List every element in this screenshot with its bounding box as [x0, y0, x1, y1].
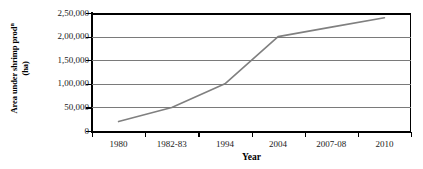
y-axis-tick-labels: 2,50,0002,00,0001,50,0001,00,00050,0000	[33, 0, 89, 169]
y-axis-tick-label: 1,00,000	[35, 79, 89, 88]
x-axis-tick-label: 2010	[375, 139, 393, 149]
x-axis-tick-label: 1982-83	[157, 139, 187, 149]
data-series-line	[119, 18, 385, 122]
x-axis-tick-mark	[305, 132, 306, 137]
gridline	[92, 84, 411, 85]
gridline	[92, 107, 411, 108]
x-axis-tick-label: 1980	[110, 139, 128, 149]
y-axis-tick-mark	[86, 84, 92, 85]
y-axis-tick-label: 1,50,000	[35, 56, 89, 65]
y-axis-tick-label: 0	[35, 127, 89, 136]
y-axis-title: Area under shrimp prodn (ha)	[0, 0, 36, 136]
y-axis-tick-label: 50,000	[35, 103, 89, 112]
x-axis-tick-label: 1994	[216, 139, 234, 149]
y-axis-tick-label: 2,00,000	[35, 32, 89, 41]
chart-figure: Area under shrimp prodn (ha) 2,50,0002,0…	[0, 0, 423, 169]
x-axis-tick-mark	[411, 132, 412, 137]
y-axis-tick-label: 2,50,000	[35, 9, 89, 18]
y-axis-tick-mark	[86, 37, 92, 38]
y-axis-title-text: Area under shrimp prod	[9, 26, 19, 113]
plot-area	[92, 13, 411, 131]
x-axis-tick-mark	[358, 132, 359, 137]
y-axis-title-units: (ha)	[19, 23, 29, 113]
x-axis-tick-mark	[198, 132, 199, 137]
x-axis-tick-mark	[145, 132, 146, 137]
gridline	[92, 37, 411, 38]
y-axis-tick-mark	[86, 107, 92, 108]
x-axis-tick-label: 2007-08	[316, 139, 346, 149]
y-axis-title-superscript: n	[9, 23, 15, 26]
x-axis-title: Year	[92, 152, 411, 162]
x-axis-tick-mark	[92, 132, 93, 137]
y-axis-tick-mark	[86, 60, 92, 61]
x-axis-tick-label: 2004	[269, 139, 287, 149]
x-axis-tick-mark	[252, 132, 253, 137]
gridline	[92, 60, 411, 61]
y-axis-tick-mark	[86, 13, 92, 14]
series-line-chart	[92, 13, 411, 131]
